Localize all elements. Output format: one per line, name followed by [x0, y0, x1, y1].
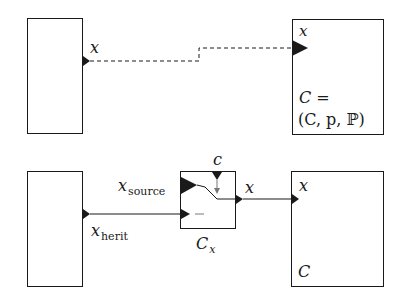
top-left-port-icon	[83, 56, 90, 66]
top-dashed-connector	[90, 48, 292, 61]
bottom-right-port-label: x	[299, 178, 308, 194]
equals-sign: =	[311, 88, 330, 107]
switch-output-label: x	[245, 180, 254, 196]
context-definition-line2: (C, p, ℙ)	[298, 112, 365, 128]
top-right-port-label: x	[299, 24, 307, 39]
bottom-left-port-icon	[83, 209, 90, 219]
switch-box	[181, 172, 236, 229]
top-left-box	[28, 19, 83, 134]
switch-box-caption: Cx	[196, 236, 215, 252]
bottom-left-box	[28, 172, 83, 287]
control-label: c	[213, 152, 222, 168]
top-left-port-label: x	[90, 40, 99, 56]
context-definition-line1: C =	[299, 90, 330, 106]
context-name: C	[299, 88, 311, 107]
diagram-canvas	[0, 0, 401, 300]
bottom-right-box-name: C	[298, 264, 310, 280]
source-port-label: xsource	[118, 178, 165, 194]
herit-port-label: xherit	[91, 223, 128, 239]
switch-output-arrow-icon	[236, 195, 243, 204]
